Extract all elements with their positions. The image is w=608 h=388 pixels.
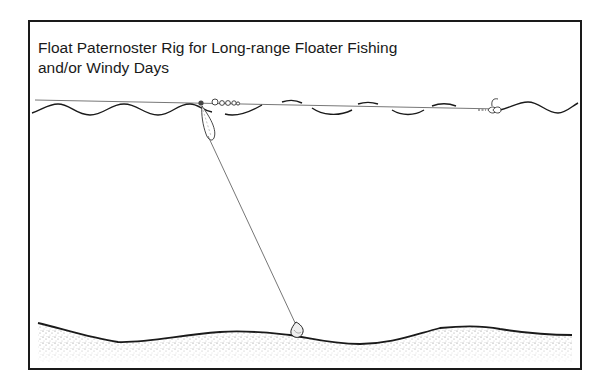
water-surface-mid6 [432,104,456,106]
water-surface-mid5 [392,110,424,115]
water-surface-mid4 [358,103,378,105]
controller-beads [212,99,240,105]
float [198,100,214,140]
lead-weight [291,322,303,337]
water-surface-mid3 [312,108,352,114]
hook-bait [478,99,501,113]
water-surface-left [32,104,212,115]
water-surface-mid1 [225,105,262,115]
paternoster-line [208,136,297,327]
water-surface-right [500,102,578,113]
rig-illustration [0,0,608,388]
water-surface-mid2 [282,101,302,103]
main-line [35,100,500,109]
